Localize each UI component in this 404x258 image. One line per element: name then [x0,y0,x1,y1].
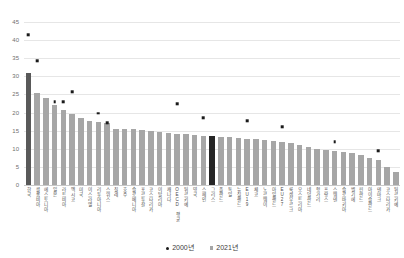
bar-slot[interactable] [68,22,77,185]
legend-item[interactable]: 2021년 [210,244,238,252]
bar[interactable] [131,129,136,185]
bar-slot[interactable] [120,22,129,185]
bar[interactable] [306,147,311,185]
bar[interactable] [104,123,109,185]
bar[interactable] [367,158,372,185]
bar-slot[interactable] [357,22,366,185]
bar-slot[interactable] [217,22,226,185]
bar-slot[interactable] [287,22,296,185]
bar[interactable] [192,135,197,185]
bar[interactable] [376,160,381,185]
bar[interactable] [244,139,249,185]
data-point-marker[interactable] [377,149,380,152]
bar-slot[interactable] [330,22,339,185]
bar-slot[interactable] [313,22,322,185]
bar[interactable] [174,134,179,185]
bar-slot[interactable] [295,22,304,185]
bar-slot[interactable] [322,22,331,185]
bar-slot[interactable] [155,22,164,185]
bar[interactable] [201,136,206,185]
bar[interactable] [314,149,319,185]
bar[interactable] [323,150,328,185]
bar[interactable] [218,137,223,185]
bar-slot[interactable] [182,22,191,185]
bar-slot[interactable] [147,22,156,185]
bar[interactable] [297,145,302,185]
bar-slot[interactable] [77,22,86,185]
bar-slot[interactable] [85,22,94,185]
bar[interactable] [332,151,337,185]
bar-slot[interactable] [269,22,278,185]
bar[interactable] [358,155,363,185]
bar[interactable] [341,152,346,185]
data-point-marker[interactable] [106,122,109,125]
bar-slot[interactable] [339,22,348,185]
bar-slot[interactable] [208,22,217,185]
bar-slot[interactable] [374,22,383,185]
bar[interactable] [279,142,284,185]
bar-slot[interactable] [112,22,121,185]
bar[interactable] [253,139,258,185]
bar-slot[interactable] [392,22,401,185]
bar[interactable] [61,110,66,185]
bar-slot[interactable] [94,22,103,185]
data-point-marker[interactable] [281,126,284,129]
bar[interactable] [166,133,171,185]
bar-slot[interactable] [252,22,261,185]
bar-slot[interactable] [33,22,42,185]
bar[interactable] [69,114,74,185]
bar[interactable] [271,141,276,185]
bar-slot[interactable] [138,22,147,185]
bar-slot[interactable] [42,22,51,185]
bar[interactable] [236,138,241,185]
bar-slot[interactable] [103,22,112,185]
bar[interactable] [349,153,354,185]
bar-slot[interactable] [348,22,357,185]
bar-slot[interactable] [173,22,182,185]
bar[interactable] [183,134,188,185]
bar-slot[interactable] [243,22,252,185]
bar-slot[interactable] [234,22,243,185]
bar[interactable] [43,98,48,185]
data-point-marker[interactable] [176,102,179,105]
bar-slot[interactable] [383,22,392,185]
bar[interactable] [52,105,57,185]
bar[interactable] [288,143,293,185]
bar[interactable] [157,132,162,185]
bar-slot[interactable] [129,22,138,185]
bar-slot[interactable] [50,22,59,185]
bar[interactable] [87,121,92,185]
bar-slot[interactable] [24,22,33,185]
bar[interactable] [148,131,153,185]
bar[interactable] [262,140,267,185]
data-point-marker[interactable] [36,59,39,62]
bar[interactable] [393,172,398,185]
bar-slot[interactable] [260,22,269,185]
bar-slot[interactable] [164,22,173,185]
bar-slot[interactable] [304,22,313,185]
bar[interactable] [96,122,101,185]
bar-slot[interactable] [190,22,199,185]
legend-item[interactable]: 2000년 [166,244,194,252]
bar[interactable] [227,137,232,185]
data-point-marker[interactable] [71,90,74,93]
data-point-marker[interactable] [62,101,65,104]
data-point-marker[interactable] [246,119,249,122]
bar[interactable] [113,129,118,186]
bar[interactable] [384,167,389,185]
bar-slot[interactable] [365,22,374,185]
bar-slot[interactable] [278,22,287,185]
data-point-marker[interactable] [27,33,30,36]
bar[interactable] [122,129,127,185]
bar[interactable] [34,93,39,185]
bar-slot[interactable] [59,22,68,185]
bar[interactable] [209,136,214,185]
data-point-marker[interactable] [202,117,205,120]
data-point-marker[interactable] [53,100,56,103]
data-point-marker[interactable] [97,112,100,115]
bar[interactable] [139,130,144,185]
data-point-marker[interactable] [333,140,336,143]
bar[interactable] [78,118,83,185]
bar[interactable] [26,73,31,185]
bar-slot[interactable] [199,22,208,185]
